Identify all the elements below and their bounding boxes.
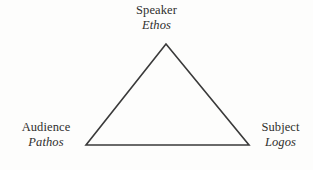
- vertex-label-speaker: Speaker Ethos: [0, 3, 313, 33]
- subject-role-label: Subject: [248, 120, 313, 135]
- audience-appeal-label: Pathos: [4, 135, 88, 150]
- speaker-appeal-label: Ethos: [0, 18, 313, 33]
- vertex-label-audience: Audience Pathos: [4, 120, 88, 150]
- subject-appeal-label: Logos: [248, 135, 313, 150]
- vertex-label-subject: Subject Logos: [248, 120, 313, 150]
- rhetorical-triangle-figure: Speaker Ethos Audience Pathos Subject Lo…: [0, 0, 313, 170]
- audience-role-label: Audience: [4, 120, 88, 135]
- speaker-role-label: Speaker: [0, 3, 313, 18]
- triangle-outline: [86, 44, 249, 145]
